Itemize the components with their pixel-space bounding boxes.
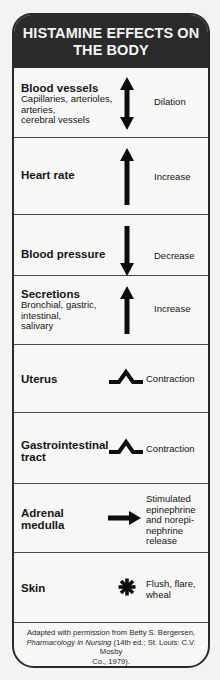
row-label: Gastrointestinal tract bbox=[21, 439, 113, 463]
effect-row-gastrointestinal-tract: Gastrointestinal tract Contraction bbox=[14, 413, 208, 484]
row-title: Skin bbox=[21, 582, 113, 594]
row-subtitle: Bronchial, gastric, bbox=[21, 300, 113, 311]
effect-row-adrenal-medulla: Adrenal medulla Stimulated epinephrine a… bbox=[14, 484, 208, 553]
row-label: Heart rate bbox=[21, 169, 113, 181]
card-header: HISTAMINE EFFECTS ON THE BODY bbox=[14, 15, 208, 68]
row-label: Secretions Bronchial, gastric, intestina… bbox=[21, 288, 113, 332]
histamine-effects-card: HISTAMINE EFFECTS ON THE BODY Blood vess… bbox=[12, 13, 210, 668]
row-effect: Dilation bbox=[154, 97, 186, 108]
row-effect: Decrease bbox=[154, 251, 195, 262]
effect-row-blood-pressure: Blood pressure Decrease bbox=[14, 215, 208, 276]
row-effect: Increase bbox=[154, 304, 190, 315]
title-line-2: THE BODY bbox=[19, 42, 204, 59]
row-label: Blood pressure bbox=[21, 248, 113, 260]
row-title-line: Gastrointestinal bbox=[21, 439, 113, 451]
row-effect: Contraction bbox=[146, 444, 195, 455]
row-subtitle: cerebral vessels bbox=[21, 115, 113, 126]
row-effect: Contraction bbox=[146, 374, 195, 385]
row-label: Blood vessels Capillaries, arterioles, a… bbox=[21, 82, 113, 126]
row-title-line: Adrenal bbox=[21, 507, 113, 519]
effect-row-uterus: Uterus Contraction bbox=[14, 345, 208, 413]
arrow-down-icon bbox=[120, 226, 134, 276]
row-subtitle: salivary bbox=[21, 321, 113, 332]
effect-row-secretions: Secretions Bronchial, gastric, intestina… bbox=[14, 276, 208, 345]
row-effect: Flush, flare, wheal bbox=[146, 579, 196, 600]
row-title: Uterus bbox=[21, 373, 113, 385]
contraction-peak-icon bbox=[109, 368, 143, 386]
effect-row-blood-vessels: Blood vessels Capillaries, arterioles, a… bbox=[14, 68, 208, 138]
arrow-up-icon bbox=[120, 148, 134, 205]
contraction-peak-icon bbox=[109, 438, 143, 456]
row-label: Uterus bbox=[21, 373, 113, 385]
title-line-1: HISTAMINE EFFECTS ON bbox=[19, 25, 204, 42]
row-effect: Increase bbox=[154, 172, 190, 183]
effect-row-skin: Skin Flush, flare, wheal bbox=[14, 553, 208, 623]
row-title-line: tract bbox=[21, 451, 113, 463]
arrow-up-icon bbox=[120, 286, 134, 334]
row-title: Heart rate bbox=[21, 169, 113, 181]
book-title: Pharmacology in Nursing bbox=[27, 638, 112, 647]
row-effect: Stimulated epinephrine and norepi- nephr… bbox=[146, 494, 196, 547]
row-label: Adrenal medulla bbox=[21, 507, 113, 531]
source-citation: Adapted with permission from Betty S. Be… bbox=[14, 628, 208, 666]
row-title: Blood pressure bbox=[21, 248, 113, 260]
arrow-right-icon bbox=[108, 511, 141, 525]
asterisk-icon bbox=[118, 578, 136, 596]
double-arrow-up-down-icon bbox=[120, 77, 134, 130]
row-subtitle: Capillaries, arterioles, bbox=[21, 94, 113, 105]
row-label: Skin bbox=[21, 582, 113, 594]
row-title-line: medulla bbox=[21, 519, 113, 531]
effect-row-heart-rate: Heart rate Increase bbox=[14, 137, 208, 215]
